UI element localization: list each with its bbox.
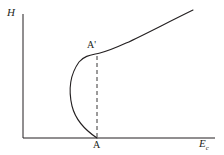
x-axis-label-base: E — [199, 137, 206, 149]
x-axis-label: Ec — [199, 138, 209, 152]
backward-bending-curve — [70, 10, 193, 138]
y-axis-label: H — [7, 7, 15, 18]
figure-container: H Ec A' A — [0, 0, 224, 155]
x-axis-label-subscript: c — [206, 144, 209, 152]
plot-canvas — [0, 0, 224, 155]
point-label-a: A — [93, 140, 100, 150]
point-label-a-prime: A' — [87, 40, 96, 50]
